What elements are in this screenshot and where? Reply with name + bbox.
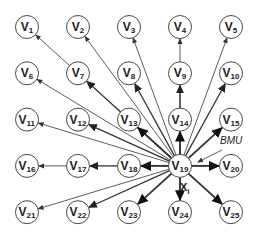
node-v20: V20: [220, 154, 243, 177]
node-v7: V7: [67, 62, 90, 85]
node-label-main: V: [121, 113, 129, 127]
node-label-sub: 19: [180, 165, 189, 174]
node-label-sub: 2: [80, 26, 85, 35]
node-label-main: V: [123, 20, 131, 34]
node-label-main: V: [21, 20, 29, 34]
node-v21: V21: [16, 201, 39, 224]
edge-v19-to-v2: [85, 37, 173, 157]
node-v22: V22: [67, 201, 90, 224]
node-label-main: V: [223, 113, 231, 127]
node-v19: V19: [169, 154, 192, 177]
node-v9: V9: [169, 62, 192, 85]
node-v10: V10: [220, 62, 243, 85]
bmu-pointer-arrow: [198, 150, 222, 162]
node-v2: V2: [67, 16, 90, 39]
node-label-main: V: [19, 159, 27, 173]
node-v14: V14: [169, 108, 192, 131]
som-neighbourhood-diagram: V1V2V3V4V5V6V7V8V9V10V11V12V13V14V15V16V…: [0, 0, 259, 236]
node-label-sub: 23: [129, 211, 138, 220]
node-v1: V1: [16, 16, 39, 39]
node-label-sub: 24: [180, 211, 189, 220]
node-v25: V25: [220, 201, 243, 224]
node-label-sub: 4: [182, 26, 187, 35]
node-label-sub: 13: [129, 119, 138, 128]
node-v13: V13: [118, 108, 141, 131]
node-label-main: V: [121, 159, 129, 173]
node-label-main: V: [223, 205, 231, 219]
edge-v19-to-v21: [38, 169, 169, 208]
node-label-main: V: [70, 205, 78, 219]
node-label-sub: 6: [29, 72, 34, 81]
node-v5: V5: [220, 16, 243, 39]
input-vector-sub: i: [187, 187, 189, 196]
node-v23: V23: [118, 201, 141, 224]
node-label-main: V: [121, 205, 129, 219]
node-label-sub: 25: [231, 211, 240, 220]
node-v15: V15: [220, 108, 243, 131]
node-label-main: V: [70, 113, 78, 127]
node-v17: V17: [67, 154, 90, 177]
node-label-main: V: [223, 159, 231, 173]
node-label-main: V: [72, 66, 80, 80]
node-label-main: V: [19, 205, 27, 219]
edge-v19-to-v3: [133, 38, 176, 155]
node-label-main: V: [172, 159, 180, 173]
node-v24: V24: [169, 201, 192, 224]
node-label-main: V: [174, 20, 182, 34]
node-label-main: V: [19, 113, 27, 127]
node-label-sub: 8: [131, 72, 136, 81]
node-label-sub: 17: [78, 165, 87, 174]
node-label-sub: 14: [180, 119, 189, 128]
node-label-sub: 12: [78, 119, 87, 128]
node-label-sub: 1: [29, 26, 34, 35]
node-label-main: V: [172, 205, 180, 219]
node-label-sub: 5: [233, 26, 238, 35]
bmu-label: BMU: [220, 135, 243, 146]
node-v11: V11: [16, 108, 39, 131]
node-label-sub: 3: [131, 26, 136, 35]
edge-v19-to-v6: [37, 80, 170, 160]
node-label-main: V: [123, 66, 131, 80]
node-label-main: V: [172, 113, 180, 127]
node-label-main: V: [72, 20, 80, 34]
node-label-main: V: [225, 20, 233, 34]
edge-v19-to-v23: [138, 174, 172, 205]
node-label-sub: 16: [27, 165, 36, 174]
node-label-sub: 7: [80, 72, 85, 81]
node-v8: V8: [118, 62, 141, 85]
input-vector-label: Xi: [180, 181, 190, 196]
node-v6: V6: [16, 62, 39, 85]
edge-v19-to-v25: [189, 174, 223, 205]
node-v4: V4: [169, 16, 192, 39]
node-v12: V12: [67, 108, 90, 131]
node-label-main: V: [21, 66, 29, 80]
node-label-main: V: [70, 159, 78, 173]
node-label-sub: 21: [27, 211, 36, 220]
edge-v19-to-v13: [138, 128, 172, 159]
node-label-sub: 18: [129, 165, 138, 174]
edge-v19-to-v15: [189, 128, 223, 159]
node-label-sub: 15: [231, 119, 240, 128]
edge-v19-to-v11: [38, 123, 169, 162]
node-label-sub: 11: [27, 119, 36, 128]
node-label-sub: 10: [231, 72, 240, 81]
node-v16: V16: [16, 154, 39, 177]
node-v18: V18: [118, 154, 141, 177]
node-label-sub: 9: [182, 72, 187, 81]
node-label-sub: 20: [231, 165, 240, 174]
node-label-main: V: [174, 66, 182, 80]
node-label-main: V: [223, 66, 231, 80]
node-v3: V3: [118, 16, 141, 39]
node-label-sub: 22: [78, 211, 87, 220]
